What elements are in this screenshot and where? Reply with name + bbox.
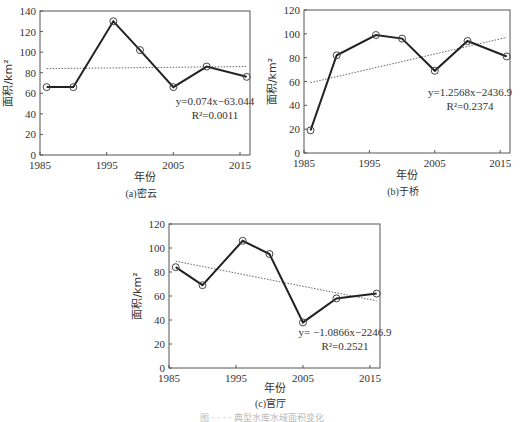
- subplot-caption: (c)官厅: [255, 397, 286, 410]
- y-tick-label: 120: [284, 4, 301, 16]
- r-squared: R²=0.2374: [446, 100, 494, 112]
- x-tick-label: 1995: [225, 372, 248, 384]
- chart-a: 0204060801001201401985199520052015y=0.07…: [2, 5, 255, 200]
- trend-equation: y=1.2568x−2436.9: [428, 86, 512, 98]
- y-tick-label: 80: [289, 52, 301, 64]
- x-axis-label: 年份: [264, 381, 286, 395]
- y-tick-label: 20: [25, 128, 37, 140]
- figure-canvas: 0204060801001201401985199520052015y=0.07…: [0, 0, 520, 422]
- trend-equation: y= −1.0866x−2246.9: [299, 326, 392, 338]
- y-axis-label: 面积/km²: [266, 58, 279, 105]
- x-tick-label: 1985: [29, 159, 52, 171]
- data-line: [311, 35, 507, 130]
- y-tick-label: 40: [25, 108, 37, 120]
- x-axis-label: 年份: [134, 170, 156, 184]
- y-axis-label: 面积/km²: [2, 59, 15, 106]
- y-axis-label: 面积/km²: [131, 272, 144, 319]
- y-tick-label: 60: [25, 87, 37, 99]
- data-line: [47, 21, 247, 87]
- plot-frame: [40, 11, 250, 155]
- y-tick-label: 120: [149, 218, 166, 230]
- r-squared: R²=0.0011: [192, 109, 239, 121]
- x-tick-label: 2005: [292, 372, 315, 384]
- y-tick-label: 20: [289, 123, 301, 135]
- data-line: [176, 241, 377, 323]
- y-tick-label: 80: [25, 67, 37, 79]
- x-tick-label: 1985: [293, 157, 316, 169]
- chart-b: 0204060801001201985199520052015y=1.2568x…: [266, 4, 512, 198]
- y-tick-label: 120: [20, 26, 37, 38]
- x-tick-label: 2015: [359, 372, 382, 384]
- trend-equation: y=0.074x−63.044: [176, 95, 255, 107]
- y-tick-label: 100: [20, 46, 37, 58]
- y-tick-label: 60: [289, 76, 301, 88]
- y-tick-label: 80: [154, 266, 166, 278]
- x-tick-label: 1995: [358, 157, 381, 169]
- chart-c: 0204060801001201985199520052015y= −1.086…: [131, 218, 392, 410]
- x-tick-label: 1985: [158, 372, 181, 384]
- subplot-caption: (a)密云: [125, 187, 156, 200]
- y-tick-label: 40: [289, 99, 301, 111]
- figure-caption: 图 · · · · 典型水库水域面积变化: [200, 412, 325, 422]
- x-tick-label: 2005: [162, 159, 185, 171]
- y-tick-label: 20: [154, 338, 166, 350]
- x-tick-label: 2015: [489, 157, 512, 169]
- y-tick-label: 140: [20, 5, 37, 17]
- y-tick-label: 100: [149, 242, 166, 254]
- x-tick-label: 2015: [229, 159, 252, 171]
- x-tick-label: 1995: [96, 159, 119, 171]
- y-tick-label: 100: [284, 28, 301, 40]
- plot-frame: [304, 10, 510, 153]
- y-tick-label: 60: [154, 290, 166, 302]
- subplot-caption: (b)于桥: [387, 186, 419, 198]
- y-tick-label: 40: [154, 314, 166, 326]
- x-axis-label: 年份: [396, 168, 418, 182]
- x-tick-label: 2005: [424, 157, 447, 169]
- r-squared: R²=0.2521: [321, 340, 368, 352]
